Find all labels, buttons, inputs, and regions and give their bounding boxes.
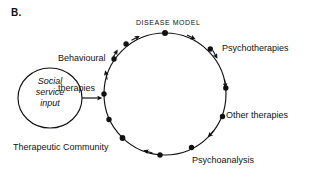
label-other-therapies: Other therapies [226, 110, 288, 120]
cycle-node [208, 46, 213, 51]
cycle-node [157, 152, 162, 157]
cycle-node [106, 117, 111, 122]
cycle-node [123, 41, 128, 46]
cycle-node [120, 135, 126, 141]
cycle-node [111, 56, 116, 61]
label-therapeutic-community: Therapeutic Community [13, 142, 109, 152]
cycle-nodes [101, 30, 228, 158]
label-social-service-input: Social service input [18, 76, 82, 109]
diagram-title: DISEASE MODEL [136, 19, 200, 27]
label-social-service-input-line1: Social [18, 76, 82, 87]
cycle-node [189, 145, 194, 150]
cycle-arrowheads [106, 35, 226, 153]
panel-letter: B. [11, 7, 21, 18]
figure-panel-b: B. DISEASE MODEL Behavioural therapies P… [0, 0, 310, 181]
label-social-service-input-line2: service [18, 87, 82, 98]
label-social-service-input-line3: input [18, 98, 82, 109]
cycle-node [220, 114, 225, 119]
label-behavioural-therapies-line1: Behavioural [58, 53, 106, 63]
label-psychotherapies: Psychotherapies [222, 43, 289, 53]
cycle-node [162, 30, 168, 36]
label-psychoanalysis: Psychoanalysis [192, 155, 254, 165]
cycle-node [223, 85, 228, 90]
